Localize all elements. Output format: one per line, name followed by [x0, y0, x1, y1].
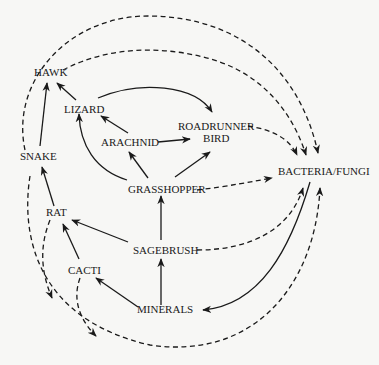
- edge-cacti-rat: [63, 224, 79, 259]
- node-lizard: LIZARD: [64, 103, 104, 115]
- node-minerals: MINERALS: [137, 303, 193, 315]
- edge-grasshopper-arachnid: [129, 152, 148, 178]
- node-snake: SNAKE: [20, 150, 57, 162]
- node-rat: RAT: [46, 206, 67, 218]
- edge-arachnid-lizard: [101, 116, 128, 133]
- node-roadrunner-line1: ROADRUNNER: [178, 120, 254, 132]
- node-grasshopper: GRASSHOPPER: [128, 183, 206, 195]
- edge-lizard-hawk: [57, 83, 76, 100]
- edge-roadrunner-bacteria: [248, 126, 297, 155]
- edge-rat-snake: [42, 167, 54, 206]
- node-bacteria-fungi: BACTERIA/FUNGI: [278, 165, 370, 177]
- edge-lizard-roadrunner: [98, 87, 212, 112]
- edge-grasshopper-bacteria: [197, 178, 272, 190]
- edge-sagebrush-rat: [72, 220, 128, 242]
- edge-minerals-cacti: [96, 278, 138, 307]
- edge-grasshopper-roadrunner: [175, 152, 210, 177]
- node-roadrunner: ROADRUNNER BIRD: [178, 120, 254, 144]
- node-cacti: CACTI: [68, 264, 101, 276]
- edge-rat-down: [43, 220, 52, 298]
- edge-bacteria-minerals: [203, 182, 310, 310]
- node-roadrunner-line2: BIRD: [178, 132, 254, 144]
- node-arachnid: ARACHNID: [101, 136, 159, 148]
- node-sagebrush: SAGEBRUSH: [133, 244, 198, 256]
- edge-snake-hawk: [40, 83, 47, 146]
- edge-cacti-down: [77, 278, 96, 336]
- node-hawk: HAWK: [34, 66, 67, 78]
